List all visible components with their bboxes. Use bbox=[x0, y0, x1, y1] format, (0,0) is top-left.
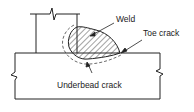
weld-label: Weld bbox=[116, 14, 135, 24]
toe-crack-label: Toe crack bbox=[143, 28, 180, 38]
weld-crack-diagram: Weld Toe crack Underbead crack bbox=[0, 0, 194, 112]
underbead-crack-label: Underbead crack bbox=[57, 80, 122, 90]
base-plate bbox=[11, 53, 163, 99]
weld-bead bbox=[68, 27, 120, 59]
